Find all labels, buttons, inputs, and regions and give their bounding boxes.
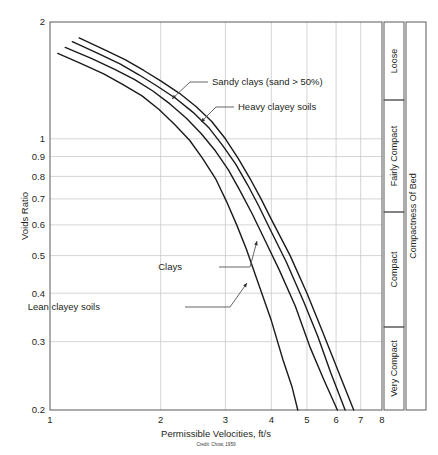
y-tick-label: 0.6: [32, 219, 45, 230]
band-label: Very Compact: [389, 340, 399, 397]
y-tick-label: 2: [40, 16, 45, 27]
x-tick-label: 6: [333, 414, 338, 425]
x-axis-title: Permissible Velocities, ft/s: [161, 428, 271, 439]
annotation-label: Lean clayey soils: [28, 301, 101, 312]
annotation-label: Heavy clayey soils: [238, 101, 316, 112]
band-label: Compact: [389, 251, 399, 288]
y-tick-label: 0.8: [32, 171, 45, 182]
chart-background: [0, 0, 438, 455]
y-tick-label: 1: [40, 133, 45, 144]
x-tick-label: 2: [158, 414, 163, 425]
compactness-axis-label: Compactness Of Bed: [408, 173, 418, 259]
y-tick-label: 0.9: [32, 151, 45, 162]
y-tick-label: 0.7: [32, 193, 45, 204]
annotation-label: Clays: [158, 261, 182, 272]
x-tick-label: 1: [47, 414, 52, 425]
x-tick-label: 7: [358, 414, 363, 425]
chart-figure: 12345678 0.20.30.40.50.60.70.80.912 Sand…: [0, 0, 438, 455]
band-label: Fairly Compact: [389, 125, 399, 186]
x-tick-label: 4: [269, 414, 274, 425]
band-label: Loose: [389, 49, 399, 74]
y-tick-label: 0.5: [32, 250, 45, 261]
y-tick-label: 0.3: [32, 336, 45, 347]
x-tick-label: 3: [223, 414, 228, 425]
x-tick-label: 5: [304, 414, 309, 425]
credit-text: Credit: Chow, 1959: [196, 442, 236, 447]
y-tick-label: 0.4: [32, 288, 45, 299]
annotation-label: Sandy clays (sand > 50%): [212, 76, 323, 87]
y-tick-label: 0.2: [32, 404, 45, 415]
y-axis-title: Voids Ratio: [19, 192, 30, 240]
x-tick-label: 8: [379, 414, 384, 425]
